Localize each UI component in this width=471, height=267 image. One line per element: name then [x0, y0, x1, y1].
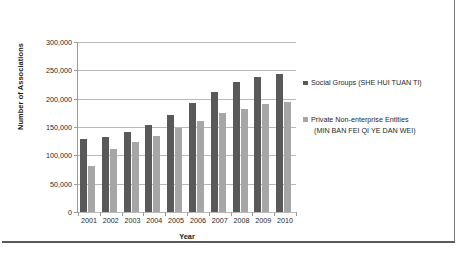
bar	[233, 82, 240, 212]
x-tick-label: 2009	[255, 216, 271, 225]
bar-group	[122, 42, 144, 212]
x-tick-mark	[122, 212, 123, 216]
bar	[262, 104, 269, 212]
bar	[284, 102, 291, 213]
bar	[132, 142, 139, 212]
x-tick-mark	[100, 212, 101, 216]
bar-group	[143, 42, 165, 212]
y-tick-label: 250,000	[46, 66, 72, 75]
bar	[219, 113, 226, 212]
bar-group	[209, 42, 231, 212]
bar	[80, 139, 87, 212]
bar	[153, 136, 160, 213]
x-tick-label: 2005	[168, 216, 184, 225]
bar	[189, 103, 196, 212]
x-tick-mark	[78, 212, 79, 216]
bar-group	[274, 42, 296, 212]
legend-swatch-icon	[303, 81, 308, 86]
legend-label-line2: (MIN BAN FEI QI YE DAN WEI)	[314, 126, 453, 137]
legend-entry[interactable]: Social Groups (SHE HUI TUAN TI)	[303, 78, 453, 89]
x-tick-mark	[165, 212, 166, 216]
x-tick-label: 2004	[146, 216, 162, 225]
bar	[124, 132, 131, 212]
bar-group	[187, 42, 209, 212]
bar	[241, 109, 248, 212]
legend-label: Private Non-enterprise Entities	[311, 115, 453, 126]
x-axis-title: Year	[78, 232, 296, 241]
x-tick-label: 2008	[234, 216, 250, 225]
x-tick-mark	[296, 212, 297, 216]
bar	[145, 125, 152, 212]
bar-group	[252, 42, 274, 212]
bar	[254, 77, 261, 212]
x-tick-label: 2010	[277, 216, 293, 225]
bar	[167, 115, 174, 212]
bar	[110, 149, 117, 212]
bar-group	[165, 42, 187, 212]
plot-area: 300,000250,000200,000150,000100,00050,00…	[78, 42, 296, 212]
legend-swatch-icon	[303, 117, 308, 122]
bar	[102, 137, 109, 212]
bar	[211, 92, 218, 212]
x-tick-label: 2003	[125, 216, 141, 225]
bar	[197, 121, 204, 212]
x-tick-label: 2007	[212, 216, 228, 225]
x-tick-mark	[143, 212, 144, 216]
legend-label: Social Groups (SHE HUI TUAN TI)	[311, 78, 453, 89]
chart-legend: Social Groups (SHE HUI TUAN TI)Private N…	[303, 78, 453, 162]
x-tick-mark	[252, 212, 253, 216]
legend-entry[interactable]: Private Non-enterprise Entities(MIN BAN …	[303, 115, 453, 137]
bar-group	[100, 42, 122, 212]
y-tick-label: 150,000	[46, 123, 72, 132]
x-tick-label: 2006	[190, 216, 206, 225]
x-tick-mark	[231, 212, 232, 216]
x-tick-mark	[274, 212, 275, 216]
bar-chart: Number of Associations 300,000250,000200…	[0, 0, 455, 245]
y-tick-label: 50,000	[50, 179, 72, 188]
bar-group	[78, 42, 100, 212]
x-tick-label: 2001	[81, 216, 97, 225]
bar	[88, 166, 95, 212]
y-axis-title: Number of Associations	[16, 27, 25, 147]
y-tick-label: 0	[68, 208, 72, 217]
y-tick-label: 300,000	[46, 38, 72, 47]
bar-group	[231, 42, 253, 212]
y-tick-label: 100,000	[46, 151, 72, 160]
x-tick-mark	[209, 212, 210, 216]
y-tick-label: 200,000	[46, 94, 72, 103]
x-tick-mark	[187, 212, 188, 216]
bar	[276, 74, 283, 212]
x-tick-label: 2002	[103, 216, 119, 225]
bar	[175, 128, 182, 212]
